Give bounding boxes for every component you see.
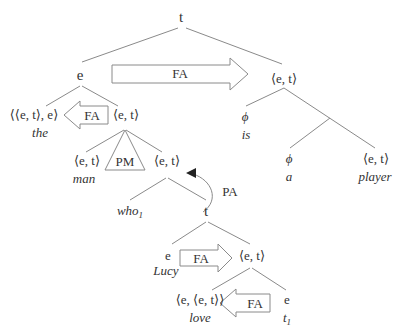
rule-verb-fa: FA: [247, 296, 263, 312]
word-love: love: [189, 311, 211, 325]
rule-det-fa: FA: [84, 108, 100, 124]
rule-main-fa: FA: [172, 66, 188, 82]
word-man: man: [73, 172, 95, 186]
word-player: player: [358, 170, 391, 184]
node-indef-type: ϕ: [286, 152, 293, 166]
node-trace-type: e: [284, 293, 290, 307]
rule-subj-fa: FA: [193, 251, 209, 267]
word-lucy: Lucy: [153, 264, 178, 278]
pa-arrow-path: [193, 174, 212, 212]
node-relcl-type: ⟨e, t⟩: [154, 154, 180, 168]
node-root-type: t: [179, 10, 183, 24]
node-vp-type: ⟨e, t⟩: [271, 72, 297, 86]
rule-pm: PM: [116, 154, 135, 170]
node-copula-type: ϕ: [242, 110, 249, 124]
word-who: who1: [117, 204, 143, 222]
node-noun-type: ⟨e, t⟩: [74, 154, 100, 168]
word-a: a: [286, 170, 293, 184]
word-is: is: [242, 128, 251, 142]
node-rel-s-type: t: [204, 204, 208, 218]
node-pred-noun-type: ⟨e, t⟩: [363, 152, 389, 166]
node-nbar-type: ⟨e, t⟩: [113, 108, 139, 122]
node-subj-type: e: [165, 249, 171, 263]
node-np-type: e: [77, 68, 84, 82]
rule-pa: PA: [222, 184, 237, 200]
word-the: the: [32, 126, 48, 140]
node-det-type: ⟨⟨e, t⟩, e⟩: [10, 108, 58, 122]
tree-lines: [0, 0, 398, 333]
node-rel-vp-type: ⟨e, t⟩: [239, 249, 265, 263]
node-verb-type: ⟨e, ⟨e, t⟩⟩: [176, 293, 224, 307]
pa-arrowhead: [186, 168, 196, 178]
word-trace: t1: [283, 311, 291, 329]
